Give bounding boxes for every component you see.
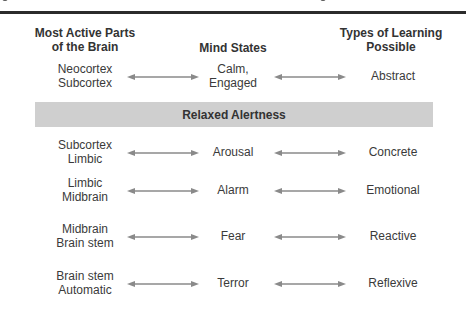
cropped-heading-fragment xyxy=(0,0,466,6)
header-line: of the Brain xyxy=(30,40,140,54)
double-arrow-icon xyxy=(127,233,199,241)
mind-state-cell: Fear xyxy=(193,229,273,243)
column-header-brain-parts: Most Active Parts of the Brain xyxy=(30,26,140,54)
cell-line: Reflexive xyxy=(353,276,433,290)
learning-type-cell: Abstract xyxy=(353,69,433,83)
brain-parts-cell: Subcortex Limbic xyxy=(35,138,135,166)
cell-line: Subcortex xyxy=(35,138,135,152)
header-line: Possible xyxy=(336,40,446,54)
relaxed-alertness-band: Relaxed Alertness xyxy=(35,102,433,127)
cell-line: Arousal xyxy=(193,145,273,159)
header-line: Types of Learning xyxy=(336,26,446,40)
mind-state-cell: Calm,Engaged xyxy=(193,62,273,90)
learning-type-cell: Emotional xyxy=(353,183,433,197)
double-arrow-icon xyxy=(127,187,199,195)
header-line: Most Active Parts xyxy=(30,26,140,40)
cell-line: Automatic xyxy=(35,283,135,297)
header-line: Mind States xyxy=(183,41,283,55)
learning-type-cell: Concrete xyxy=(353,145,433,159)
cell-line: Subcortex xyxy=(35,76,135,90)
double-arrow-icon xyxy=(274,73,346,81)
learning-type-cell: Reactive xyxy=(353,229,433,243)
cell-line: Concrete xyxy=(353,145,433,159)
cell-line: Calm, xyxy=(193,62,273,76)
learning-type-cell: Reflexive xyxy=(353,276,433,290)
mind-state-cell: Terror xyxy=(193,276,273,290)
double-arrow-icon xyxy=(127,73,199,81)
brain-parts-cell: Limbic Midbrain xyxy=(35,176,135,204)
column-header-mind-states: Mind States xyxy=(183,41,283,55)
top-rule-divider xyxy=(0,11,466,14)
double-arrow-icon xyxy=(127,149,199,157)
double-arrow-icon xyxy=(127,280,199,288)
cell-line: Limbic xyxy=(35,152,135,166)
cell-line: Brain stem xyxy=(35,236,135,250)
cell-line: Alarm xyxy=(193,183,273,197)
double-arrow-icon xyxy=(274,187,346,195)
cell-line: Terror xyxy=(193,276,273,290)
cell-line: Midbrain xyxy=(35,222,135,236)
cell-line: Brain stem xyxy=(35,269,135,283)
brain-parts-cell: Brain stem Automatic xyxy=(35,269,135,297)
cell-line: Emotional xyxy=(353,183,433,197)
brain-parts-cell: Neocortex Subcortex xyxy=(35,62,135,90)
band-label: Relaxed Alertness xyxy=(182,108,286,122)
double-arrow-icon xyxy=(274,233,346,241)
cell-line: Engaged xyxy=(193,76,273,90)
cell-line: Reactive xyxy=(353,229,433,243)
cell-line: Neocortex xyxy=(35,62,135,76)
cell-line: Midbrain xyxy=(35,190,135,204)
mind-state-cell: Alarm xyxy=(193,183,273,197)
brain-parts-cell: Midbrain Brain stem xyxy=(35,222,135,250)
cell-line: Fear xyxy=(193,229,273,243)
cell-line: Limbic xyxy=(35,176,135,190)
cell-line: Abstract xyxy=(353,69,433,83)
mind-state-cell: Arousal xyxy=(193,145,273,159)
double-arrow-icon xyxy=(274,149,346,157)
double-arrow-icon xyxy=(274,280,346,288)
column-header-learning-types: Types of Learning Possible xyxy=(336,26,446,54)
